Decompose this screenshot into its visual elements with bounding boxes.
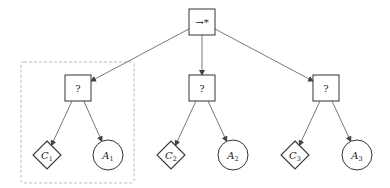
edge-sel2-to-a2 — [208, 101, 227, 141]
behavior-tree-diagram: →*???C1A1C2A2C3A3 — [0, 0, 390, 188]
action-node-a1: A1 — [93, 140, 123, 170]
fallback-node-2-label: ? — [199, 83, 204, 94]
fallback-node-3: ? — [313, 75, 339, 101]
edge-sel3-to-a3 — [332, 101, 351, 141]
action-node-a3: A3 — [342, 140, 372, 170]
edge-sel1-to-c1 — [51, 101, 72, 145]
edge-sel2-to-c2 — [175, 101, 196, 145]
edge-root-to-selector-1 — [91, 29, 189, 81]
fallback-node-1: ? — [65, 75, 91, 101]
fallback-node-3-label: ? — [323, 83, 328, 94]
sequence-node-root-label: →* — [195, 17, 208, 28]
action-node-a2: A2 — [218, 140, 248, 170]
edge-sel1-to-a1 — [84, 101, 102, 141]
edge-sel3-to-c3 — [299, 101, 320, 145]
edge-root-to-selector-3 — [215, 29, 313, 81]
fallback-node-1-label: ? — [75, 83, 80, 94]
condition-node-c3: C3 — [281, 141, 309, 169]
condition-node-c1: C1 — [33, 141, 61, 169]
sequence-node-root: →* — [189, 9, 215, 35]
fallback-node-2: ? — [189, 75, 215, 101]
condition-node-c2: C2 — [157, 141, 185, 169]
